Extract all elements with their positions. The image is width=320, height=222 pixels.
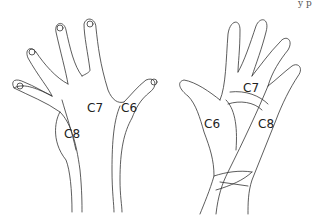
palmar-label-c8: C8 <box>258 117 274 131</box>
palmar-hand <box>180 20 301 214</box>
hands-diagram <box>0 0 320 222</box>
palmar-label-c6: C6 <box>204 117 220 131</box>
dorsal-label-c7: C7 <box>87 101 103 115</box>
dorsal-label-c8: C8 <box>64 127 80 141</box>
dorsal-label-c6: C6 <box>121 101 137 115</box>
dorsal-hand <box>13 19 157 212</box>
palmar-label-c7: C7 <box>243 81 259 95</box>
